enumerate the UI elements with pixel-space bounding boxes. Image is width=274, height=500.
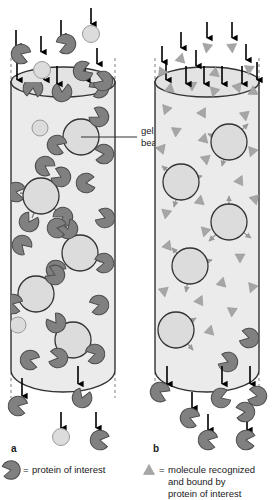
panel-a-outlet-particles (6, 387, 110, 451)
legend: = protein of interest = molecule recogni… (2, 459, 256, 499)
panel-b: b (147, 22, 268, 454)
legend-item-recognized-molecule: = molecule recognized and bound by prote… (144, 464, 256, 499)
gel-bead (163, 164, 199, 200)
legend-label-molecule-line-3: protein of interest (168, 488, 242, 499)
legend-item-protein-of-interest: = protein of interest (2, 459, 106, 480)
panel-label-b: b (153, 443, 159, 454)
panel-a: a (1, 8, 117, 454)
figure-root: a gel bead (0, 0, 274, 500)
gel-bead (211, 204, 247, 240)
column-b-top-opening (155, 67, 259, 97)
legend-equals-molecule: = (159, 464, 165, 475)
affinity-chromatography-diagram: a gel bead (0, 0, 274, 500)
recognized-molecule-icon (144, 465, 155, 475)
legend-label-molecule-line-1: molecule recognized (168, 464, 255, 475)
legend-label-protein: protein of interest (32, 464, 106, 475)
callout-label-line-1: gel (141, 125, 154, 136)
gel-bead (172, 248, 208, 284)
gel-bead (211, 124, 247, 160)
panel-label-a: a (11, 443, 17, 454)
legend-label-molecule-line-2: and bound by (168, 476, 226, 487)
gel-bead (158, 312, 194, 348)
protein-of-interest-icon (2, 459, 22, 480)
legend-equals-protein: = (23, 464, 29, 475)
gel-bead (62, 235, 98, 271)
